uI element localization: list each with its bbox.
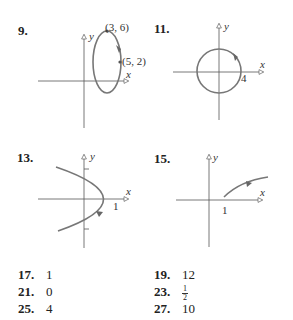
problem-number: 15. (154, 151, 170, 167)
x-axis-label: x (260, 186, 265, 198)
problem-number: 13. (17, 150, 33, 166)
y-axis-label: y (89, 30, 94, 42)
point-label: (3, 6) (105, 21, 129, 33)
x-axis-label: x (260, 58, 265, 70)
tick-label: 1 (222, 204, 228, 216)
answer-17: 17.1 (18, 267, 53, 283)
graph-11 (173, 24, 263, 120)
ellipse-curve (93, 31, 121, 93)
x-axis-label: x (126, 185, 131, 197)
tick-label: 1 (113, 200, 119, 212)
answer-23: 23.12 (154, 284, 188, 302)
fraction: 12 (182, 285, 188, 302)
direction-arrow-icon (96, 211, 103, 217)
answer-19: 19.12 (154, 267, 195, 283)
x-axis-label: x (126, 68, 131, 80)
tick-label: 4 (241, 72, 247, 84)
graph-15 (176, 155, 268, 247)
y-axis-label: y (224, 20, 229, 32)
answer-21: 21.0 (18, 284, 53, 300)
answer-27: 27.10 (154, 301, 195, 317)
y-axis-label: y (90, 150, 95, 162)
point-label: (5, 2) (122, 55, 146, 67)
answer-25: 25.4 (18, 301, 53, 317)
problem-number: 9. (18, 23, 28, 39)
y-axis-label: y (213, 151, 218, 163)
graph-9 (38, 29, 128, 128)
problem-number: 11. (154, 21, 170, 37)
